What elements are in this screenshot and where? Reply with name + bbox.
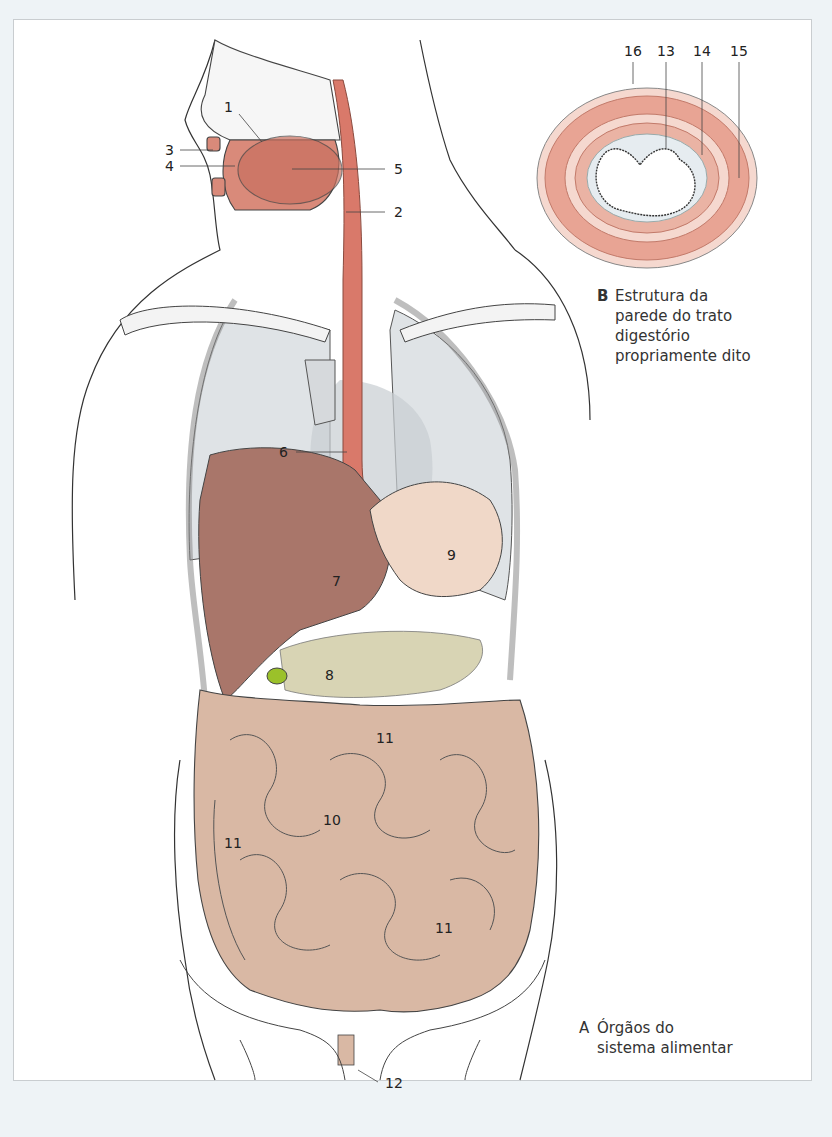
label-10-small-intestine: 10 [323,813,341,827]
caption-b-line1: Estrutura da [615,286,708,306]
caption-b-line3: digestório [615,326,690,346]
label-3-lip: 3 [165,143,174,157]
label-8-pancreas: 8 [325,668,334,682]
caption-a-line1: Órgãos do [597,1018,674,1038]
label-7-liver: 7 [332,574,341,588]
caption-panel-b: B Estrutura da parede do trato digestóri… [597,286,797,370]
label-9-stomach: 9 [447,548,456,562]
label-11-large-intestine-ascending: 11 [224,836,242,850]
pancreas [280,631,483,697]
caption-a-letter: A [579,1018,589,1038]
caption-panel-a: A Órgãos do sistema alimentar [579,1018,799,1062]
head [201,40,342,210]
label-5-tongue: 5 [394,162,403,176]
stomach [370,482,502,597]
rectum [338,1035,354,1065]
label-13: 13 [657,44,675,58]
intestines [194,690,539,1012]
label-16: 16 [624,44,642,58]
label-15: 15 [730,44,748,58]
caption-b-letter: B [597,286,608,306]
label-1-oral-cavity: 1 [224,100,233,114]
label-11-large-intestine-descending: 11 [435,921,453,935]
caption-a-line2: sistema alimentar [597,1038,733,1058]
alimentary-system-illustration [0,0,832,1137]
label-2-pharynx: 2 [394,205,403,219]
label-6-esophagus: 6 [279,445,288,459]
wall-cross-section [537,88,757,268]
gallbladder [267,668,287,684]
label-14: 14 [693,44,711,58]
caption-b-line4: propriamente dito [615,346,751,366]
caption-b-line2: parede do trato [615,306,732,326]
clavicles [120,304,555,342]
label-4-teeth: 4 [165,159,174,173]
label-11-large-intestine-transverse: 11 [376,731,394,745]
label-12-rectum: 12 [385,1076,403,1090]
